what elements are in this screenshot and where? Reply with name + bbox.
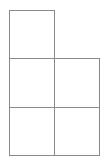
grid-cell-r2-c1 <box>54 107 100 156</box>
grid-cell-r1-c1 <box>54 58 100 108</box>
grid-cell-r0-c0 <box>9 10 55 59</box>
grid-cell-r2-c0 <box>9 107 55 156</box>
grid-cell-r1-c0 <box>9 58 55 108</box>
